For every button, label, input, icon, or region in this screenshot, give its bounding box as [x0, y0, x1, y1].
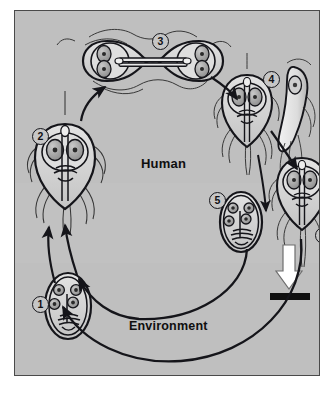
- zone-label-environment: Environment: [129, 319, 208, 333]
- figure-frame: Human Environment 1 2 3 4 5 6: [14, 10, 320, 376]
- stage-badge-4: 4: [263, 71, 280, 88]
- stage-badge-5: 5: [209, 192, 226, 209]
- zone-label-human: Human: [141, 156, 186, 171]
- stage-badge-3: 3: [152, 33, 169, 50]
- life-cycle-figure: Human Environment 1 2 3 4 5 6: [0, 0, 334, 395]
- stage-badge-2: 2: [32, 128, 49, 145]
- stage-5-cyst: [220, 192, 262, 252]
- stage-badge-1: 1: [32, 296, 49, 313]
- stage-1-cyst: [45, 273, 91, 339]
